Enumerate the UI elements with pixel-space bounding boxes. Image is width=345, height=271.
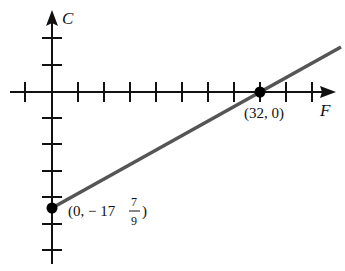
svg-text:(0, − 17: (0, − 17 (68, 203, 116, 220)
x-intercept-point (255, 87, 266, 98)
conversion-line (52, 47, 341, 208)
y-intercept-label: (0, − 17 7 9 ) (68, 195, 147, 228)
svg-text:9: 9 (131, 214, 137, 228)
y-axis-label: C (62, 9, 74, 28)
y-axis (42, 20, 62, 264)
x-intercept-label: (32, 0) (244, 105, 284, 122)
y-intercept-point (47, 203, 58, 214)
svg-text:): ) (142, 203, 147, 220)
svg-text:7: 7 (131, 195, 137, 209)
x-axis-label: F (319, 101, 331, 120)
x-axis-arrow-icon (320, 86, 336, 98)
x-axis (10, 82, 326, 102)
graph: C F (32, 0) (0, − 17 7 9 ) (0, 0, 345, 271)
